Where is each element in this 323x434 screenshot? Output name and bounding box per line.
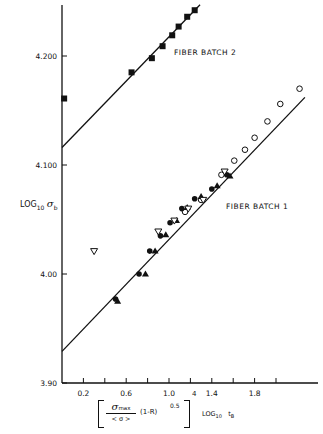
fraction-numerator: σmax xyxy=(106,401,136,414)
open-circle-marker xyxy=(297,86,303,92)
filled-circle-marker xyxy=(179,206,185,212)
x-tick-label: 1.8 xyxy=(249,389,261,398)
y-axis-label: LOG10 σb xyxy=(20,198,58,211)
x-tick-label: 1.4 xyxy=(206,389,218,398)
exponent-four: 4 xyxy=(192,390,196,398)
filled-circle-marker xyxy=(209,186,215,192)
square-marker xyxy=(192,7,198,13)
y-tick-label: 4.100 xyxy=(36,161,58,170)
x-axis-label: σmax < σ > (1-R) 0.5 4 LOG10 tB xyxy=(98,398,298,428)
left-bracket xyxy=(98,400,104,428)
open-circle-marker xyxy=(252,135,258,141)
fiber-batch-1-label: FIBER BATCH 1 xyxy=(226,202,288,211)
filled-triangle-marker xyxy=(142,271,149,277)
y-tick-label: 3.90 xyxy=(40,379,57,388)
log-tb: LOG10 tB xyxy=(202,410,234,419)
y-tick-label: 4.00 xyxy=(40,270,57,279)
right-bracket xyxy=(184,400,190,428)
y-axis-label-log: LOG xyxy=(20,200,37,209)
x-tick-label: 0.2 xyxy=(77,389,89,398)
scatter-chart: 0.20.61.01.41.83.904.004.1004.200 FIBER … xyxy=(0,0,323,434)
sigma-ratio-fraction: σmax < σ > xyxy=(106,401,136,423)
filled-triangle-marker xyxy=(162,231,169,237)
open-circle-marker xyxy=(277,101,283,107)
open-triangle-marker xyxy=(91,249,98,255)
one-minus-r: (1-R) xyxy=(140,408,157,416)
square-marker xyxy=(184,14,190,20)
square-marker xyxy=(129,69,135,75)
square-marker xyxy=(169,32,175,38)
open-circle-marker xyxy=(231,158,237,164)
filled-circle-marker xyxy=(147,248,153,254)
tb-sub: B xyxy=(231,413,234,419)
log-base: 10 xyxy=(216,413,222,419)
square-marker xyxy=(149,55,155,61)
square-marker xyxy=(176,24,182,30)
fraction-denominator: < σ > xyxy=(106,414,136,423)
x-tick-label: 0.6 xyxy=(120,389,132,398)
square-marker xyxy=(160,43,166,49)
exponent-half: 0.5 xyxy=(170,402,180,409)
y-tick-label: 4.200 xyxy=(36,52,58,61)
x-tick-label: 1.0 xyxy=(163,389,175,398)
numerator-sub: max xyxy=(118,405,130,411)
filled-circle-marker xyxy=(136,271,142,277)
square-marker xyxy=(61,96,67,102)
filled-circle-marker xyxy=(192,196,198,202)
y-axis-label-sigma-sub: b xyxy=(54,204,58,211)
annotations: FIBER BATCH 2FIBER BATCH 1 xyxy=(174,48,288,211)
y-axis-label-sigma: σ xyxy=(47,198,54,209)
open-circle-marker xyxy=(242,147,248,153)
y-axis-label-base: 10 xyxy=(37,204,45,211)
open-circle-marker xyxy=(265,119,271,125)
fiber-batch-2-label: FIBER BATCH 2 xyxy=(174,48,236,57)
log-text: LOG xyxy=(202,410,216,418)
fit-line xyxy=(62,97,305,351)
filled-triangle-marker xyxy=(214,182,221,188)
